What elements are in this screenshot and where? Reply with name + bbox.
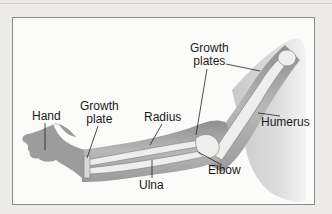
label-growth-plate: Growth plate — [80, 100, 119, 126]
label-growth-plate-line2: plate — [80, 113, 119, 126]
label-ulna: Ulna — [139, 179, 164, 192]
label-growth-plates: Growth plates — [190, 42, 229, 68]
label-growth-plates-line2: plates — [190, 55, 229, 68]
humeral-head — [278, 50, 296, 66]
label-radius: Radius — [144, 111, 181, 124]
arm-illustration — [0, 0, 332, 214]
wrist-growth-plate — [84, 156, 90, 178]
hand — [22, 123, 84, 180]
label-humerus: Humerus — [261, 116, 310, 129]
label-elbow: Elbow — [208, 164, 241, 177]
label-hand: Hand — [32, 110, 61, 123]
